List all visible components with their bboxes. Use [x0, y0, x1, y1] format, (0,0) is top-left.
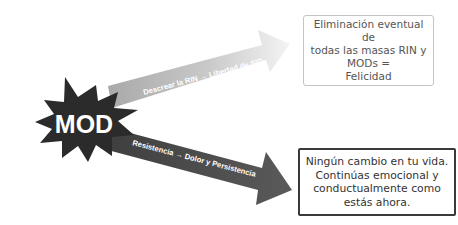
- outcome-text-happiness: Eliminación eventual de todas las masas …: [304, 16, 433, 85]
- outcome-box-happiness: Eliminación eventual de todas las masas …: [303, 15, 434, 86]
- outcome-box-no-change: Ningún cambio en tu vida. Continúas emoc…: [298, 148, 456, 216]
- upper-arrow-shape: [108, 30, 290, 108]
- mod-label: MOD: [55, 110, 113, 138]
- lower-arrow-shape: [100, 126, 292, 205]
- outcome-text-no-change: Ningún cambio en tu vida. Continúas emoc…: [302, 153, 453, 211]
- upper-arrow: Descrear la RIN → Libertad de SID: [108, 30, 290, 108]
- lower-arrow: Resistencia → Dolor y Persistencia: [100, 126, 292, 205]
